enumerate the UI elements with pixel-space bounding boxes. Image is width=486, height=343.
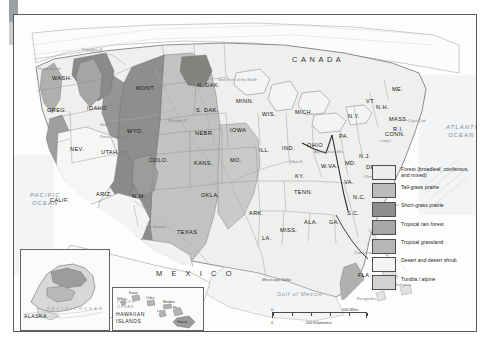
state-label-18: IND. [282, 146, 295, 152]
state-label-10: NEBR. [195, 131, 214, 137]
legend-label-tropical-grassland: Tropical grassland [401, 239, 443, 246]
legend-swatch-tall-grass-prairie [372, 183, 396, 198]
legend-label-tropical-rain-forest: Tropical rain forest [401, 220, 444, 227]
state-label-14: COLO. [149, 158, 168, 164]
alaska-inset-title: ALASKA [24, 314, 47, 319]
hawaii-inset-title-line2: ISLANDS [116, 319, 141, 324]
legend-label-tall-grass-prairie: Tall-grass prairie [401, 183, 439, 190]
state-label-30: MD. [345, 161, 356, 167]
legend-item-tall-grass-prairie: Tall-grass prairie [372, 183, 472, 198]
legend-label-tundra-alpine: Tundra / alpine [401, 275, 435, 282]
state-label-33: KY. [295, 174, 305, 180]
legend-swatch-desert-and-desert-shrub [372, 257, 396, 272]
state-label-19: OHIO [307, 143, 323, 149]
ocean-label-3: OCEAN [448, 133, 474, 139]
legend-item-tundra-alpine: Tundra / alpine [372, 275, 472, 290]
state-label-22: VT. [366, 99, 375, 105]
state-label-31: W.VA. [321, 164, 338, 170]
scale-miles-end: 500 Miles [342, 307, 359, 312]
legend-label-desert-and-desert-shrub: Desert and desert shrub [401, 257, 457, 264]
map-legend: Forest (broadleaf, coniferous, and mixed… [372, 165, 472, 294]
scale-miles-start: 0 [271, 307, 273, 312]
state-label-38: ALA. [304, 220, 318, 226]
legend-swatch-tundra-alpine [372, 275, 396, 290]
ocean-label-2: ATLANTIC [446, 125, 477, 131]
feature-label-0: Columbia R. [82, 48, 103, 52]
feature-label-4: Snake R. [100, 123, 116, 127]
state-label-24: ME. [392, 87, 403, 93]
country-label-1: M E X I C O [156, 270, 235, 277]
state-label-25: MASS. [389, 117, 408, 123]
state-label-16: MO. [230, 158, 242, 164]
state-label-34: TENN. [294, 190, 313, 196]
feature-label-1: Puget Sound [38, 67, 61, 71]
feature-label-3: Missouri R. [168, 119, 187, 123]
state-label-37: GA. [329, 220, 340, 226]
state-label-40: ARK. [249, 211, 264, 217]
legend-swatch-short-grass-prairie [372, 202, 396, 217]
map-figure: CANADAM E X I C OPACIFICOCEANATLANTICOCE… [13, 14, 477, 332]
state-label-20: PA. [339, 134, 349, 140]
state-label-47: FLA. [358, 273, 371, 279]
legend-item-forest: Forest (broadleaf, coniferous, and mixed… [372, 165, 472, 180]
state-label-46: CALIF. [50, 198, 69, 204]
state-label-3: MONT. [136, 86, 155, 92]
feature-label-2: Red River of the North [218, 78, 257, 82]
country-label-0: CANADA [292, 56, 344, 63]
feature-label-15: Everglades [357, 297, 376, 301]
ocean-label-4: Gulf of Mexico [277, 292, 323, 297]
state-label-5: S. DAK. [196, 108, 219, 114]
state-label-35: N.C. [353, 195, 366, 201]
feature-label-7: Appalachian Mts. [314, 150, 344, 154]
legend-label-forest: Forest (broadleaf, coniferous, and mixed… [401, 165, 472, 178]
state-label-13: UTAH [101, 150, 117, 156]
legend-swatch-tropical-rain-forest [372, 220, 396, 235]
state-label-17: ILL. [259, 148, 270, 154]
feature-label-5: Great Salt Lake [100, 135, 127, 139]
legend-item-tropical-rain-forest: Tropical rain forest [372, 220, 472, 235]
state-label-11: IOWA [230, 128, 246, 134]
legend-item-tropical-grassland: Tropical grassland [372, 239, 472, 254]
feature-label-13: Mississippi Delta [262, 278, 291, 282]
feature-label-6: Ohio R. [290, 160, 303, 164]
scale-km-end: 500 Kilometers [306, 320, 332, 325]
hawaii-island-label-3: Molokai [163, 301, 175, 304]
state-label-8: MICH. [295, 110, 313, 116]
feature-label-12: Rio Grande [146, 225, 166, 229]
state-label-27: CONN. [385, 132, 405, 138]
scale-bar-miles [272, 312, 367, 318]
state-label-2: IDAHO [87, 106, 107, 112]
state-label-7: WIS. [262, 112, 276, 118]
hawaii-island-label-2: Oahu [146, 297, 154, 300]
state-label-39: MISS. [280, 228, 297, 234]
hawaii-island-label-6: Hawaii [177, 321, 187, 324]
alaska-inset: ALASKA P A C I F I C O C E A N [20, 249, 110, 331]
state-label-0: WASH. [52, 76, 72, 82]
state-label-4: N. DAK. [197, 83, 220, 89]
state-label-42: OKLA. [201, 193, 219, 199]
legend-label-short-grass-prairie: Short-grass prairie [401, 202, 444, 209]
legend-swatch-tropical-grassland [372, 239, 396, 254]
state-label-28: N.J. [359, 154, 371, 160]
screenshot-root: CANADAM E X I C OPACIFICOCEANATLANTICOCE… [0, 0, 486, 343]
state-label-44: N.M. [132, 194, 145, 200]
hawaii-island-label-5: Maui [173, 307, 180, 310]
state-label-43: TEXAS [177, 230, 197, 236]
state-label-23: N.H. [376, 105, 389, 111]
scale-km-start: 0 [271, 320, 273, 325]
state-label-32: VA. [344, 180, 354, 186]
state-label-45: ARIZ. [96, 192, 112, 198]
hawaii-inset-title-line1: HAWAIIAN [116, 312, 145, 317]
state-label-41: LA. [262, 236, 272, 242]
hawaii-inset-ocean-line2: OCEAN [117, 306, 134, 310]
legend-item-short-grass-prairie: Short-grass prairie [372, 202, 472, 217]
state-label-36: S.C. [347, 211, 359, 217]
state-label-6: MINN. [236, 99, 254, 105]
hawaii-island-label-1: Kauai [129, 292, 138, 295]
hawaii-island-label-4: Lanai [157, 310, 165, 313]
state-label-12: NEV. [70, 147, 84, 153]
scale-bar: 0 500 Miles 0 500 Kilometers [272, 312, 367, 318]
hawaii-inset: HAWAIIAN ISLANDS PACIFIC OCEAN NiihauKau… [112, 287, 204, 331]
state-label-21: N.Y. [348, 114, 360, 120]
hawaii-island-label-0: Niihau [117, 298, 127, 301]
